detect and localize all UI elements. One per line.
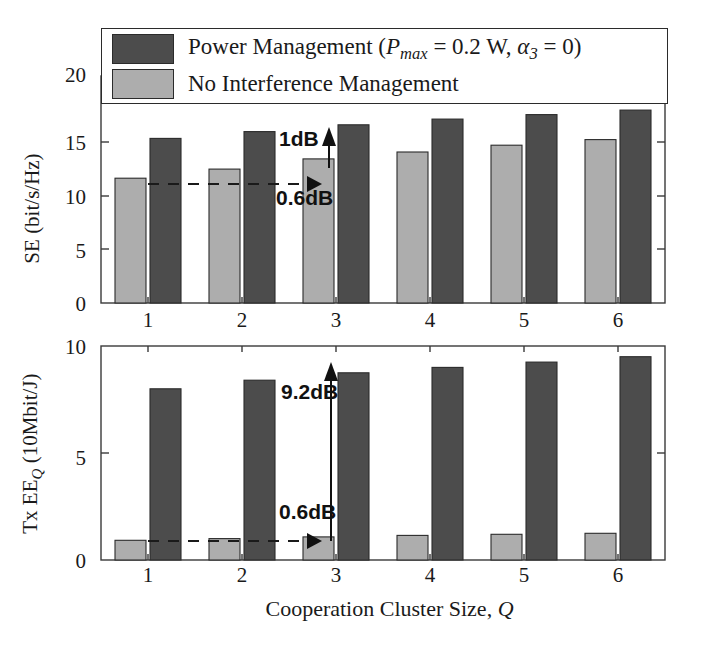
annotation-9p2db: 9.2dB xyxy=(281,380,338,404)
bottom-xtick-3: 3 xyxy=(316,563,356,588)
bar-transmit-energy-efficiency-q5-no-interference xyxy=(491,534,522,560)
annotation-0p6db-bottom: 0.6dB xyxy=(279,500,336,524)
bar-transmit-energy-efficiency-q6-no-interference xyxy=(585,533,616,560)
bar-transmit-energy-efficiency-q6-power-management xyxy=(620,357,651,560)
bottom-xtick-2: 2 xyxy=(222,563,262,588)
bottom-xtick-4: 4 xyxy=(410,563,450,588)
x-axis-label: Cooperation Cluster Size, Q xyxy=(113,596,666,622)
bottom-chart-plot-area xyxy=(0,0,703,648)
x-axis-label-var: Q xyxy=(498,596,514,621)
bar-transmit-energy-efficiency-q1-power-management xyxy=(150,389,181,560)
bottom-xtick-1: 1 xyxy=(128,563,168,588)
bar-transmit-energy-efficiency-q3-power-management xyxy=(338,373,369,560)
bar-transmit-energy-efficiency-q2-power-management xyxy=(244,380,275,560)
bar-transmit-energy-efficiency-q4-power-management xyxy=(432,367,463,560)
bottom-axis-frame xyxy=(101,346,665,560)
bar-transmit-energy-efficiency-q1-no-interference xyxy=(115,540,146,560)
bar-transmit-energy-efficiency-q4-no-interference xyxy=(397,535,428,560)
bottom-xtick-6: 6 xyxy=(598,563,638,588)
bar-transmit-energy-efficiency-q5-power-management xyxy=(526,362,557,560)
x-axis-label-text: Cooperation Cluster Size, xyxy=(265,596,497,621)
bottom-chart-bars xyxy=(115,357,651,560)
figure-container: SE (bit/s/Hz) 20 15 10 5 0 xyxy=(0,0,703,648)
bottom-xtick-5: 5 xyxy=(504,563,544,588)
